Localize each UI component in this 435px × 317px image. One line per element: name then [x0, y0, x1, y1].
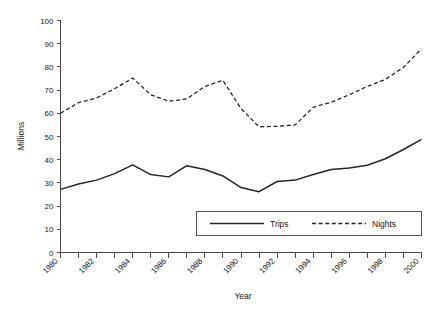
- x-axis-tick-label: 1988: [185, 256, 204, 275]
- x-axis-tick-label: 2000: [402, 256, 421, 275]
- y-axis-tick-label: 10: [45, 225, 54, 234]
- x-axis-tick-label: 1980: [41, 256, 60, 275]
- x-axis-tick-label: 1986: [149, 256, 168, 275]
- y-axis-tick-label: 40: [45, 156, 54, 165]
- legend-label-trips: Trips: [270, 219, 289, 229]
- x-axis-tick-label: 1994: [294, 256, 313, 275]
- x-axis-tick-label: 1982: [77, 256, 96, 275]
- legend-label-nights: Nights: [372, 219, 396, 229]
- y-axis-tick-label: 90: [45, 40, 54, 49]
- chart-canvas: 0102030405060708090100198019821984198619…: [0, 0, 435, 317]
- x-axis-tick-label: 1984: [113, 256, 132, 275]
- y-axis-tick-label: 100: [40, 17, 54, 26]
- series-line-nights: [61, 49, 422, 127]
- series-line-trips: [61, 139, 422, 191]
- x-axis-tick-label: 1990: [221, 256, 240, 275]
- x-axis-tick-label: 1998: [366, 256, 385, 275]
- y-axis-tick-label: 20: [45, 202, 54, 211]
- y-axis-tick-label: 80: [45, 63, 54, 72]
- x-axis-tick-label: 1992: [258, 256, 277, 275]
- y-axis-tick-label: 60: [45, 109, 54, 118]
- line-chart: 0102030405060708090100198019821984198619…: [0, 0, 435, 317]
- y-axis-tick-label: 30: [45, 179, 54, 188]
- y-axis-tick-label: 50: [45, 133, 54, 142]
- y-axis-tick-label: 70: [45, 86, 54, 95]
- y-axis-title: Millions: [16, 122, 26, 150]
- y-axis-tick-label: 0: [49, 249, 54, 258]
- x-axis-tick-label: 1996: [330, 256, 349, 275]
- x-axis-title: Year: [234, 291, 251, 301]
